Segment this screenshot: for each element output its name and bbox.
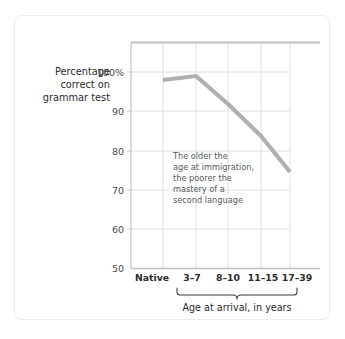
annotation-line-3: the poorer the <box>173 173 232 183</box>
ytick-label-70: 70 <box>112 185 124 196</box>
age-group-bracket <box>177 288 297 299</box>
y-axis-title-line-2: correct on <box>60 79 110 90</box>
chart-svg: 100% 90 80 70 60 50 Percentage correct o… <box>0 0 345 339</box>
xtick-label-3-7: 3–7 <box>183 272 201 283</box>
y-tick-marks <box>127 72 131 229</box>
xtick-label-8-10: 8–10 <box>216 272 241 283</box>
y-axis-title: Percentage correct on grammar test <box>43 66 110 103</box>
y-axis-title-line-1: Percentage <box>55 66 110 77</box>
ytick-label-60: 60 <box>112 224 124 235</box>
ytick-label-80: 80 <box>112 146 124 157</box>
trend-annotation: The older the age at immigration, the po… <box>172 151 254 205</box>
bracket-path <box>177 288 297 299</box>
annotation-line-2: age at immigration, <box>173 162 254 172</box>
ytick-label-50: 50 <box>112 263 124 274</box>
xtick-label-11-15: 11–15 <box>248 272 279 283</box>
annotation-line-1: The older the <box>172 151 228 161</box>
xtick-label-17-39: 17–39 <box>282 272 313 283</box>
annotation-line-5: second language <box>173 195 243 205</box>
x-axis-title: Age at arrival, in years <box>182 302 291 313</box>
y-axis-title-line-3: grammar test <box>43 92 110 103</box>
xtick-label-native: Native <box>135 272 169 283</box>
x-axis-tick-labels: Native 3–7 8–10 11–15 17–39 <box>135 272 312 283</box>
grammar-test-line-chart: 100% 90 80 70 60 50 Percentage correct o… <box>0 0 345 339</box>
ytick-label-90: 90 <box>112 106 124 117</box>
x-axis-title-text: Age at arrival, in years <box>182 302 291 313</box>
annotation-line-4: mastery of a <box>173 184 225 194</box>
